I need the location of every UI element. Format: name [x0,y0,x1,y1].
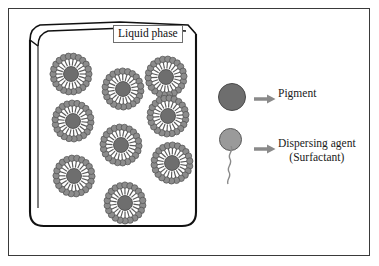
pigment-core [165,156,180,171]
micelle [147,95,189,137]
pigment-label: Pigment [278,87,316,99]
micelle [52,100,94,142]
pigment-core [114,138,129,153]
pigment-core [159,70,174,85]
micelle [102,68,144,110]
micelle [50,53,92,95]
micelle [100,124,142,166]
pigment-core [116,82,131,97]
surfactant-label-line2: (Surfactant) [278,150,356,164]
pigment-core [66,114,81,129]
surfactant-tail-icon [220,146,244,186]
micelle [104,182,146,224]
liquid-phase-label: Liquid phase [113,25,183,43]
legend: Pigment Dispersing agent (Surfactant) [212,78,372,188]
micelle [145,56,187,98]
pigment-core [67,169,82,184]
pigment-core [161,109,176,124]
right-arrow-icon [254,94,276,104]
surfactant-label-line1: Dispersing agent [278,137,356,149]
pigment-swatch-icon [218,83,246,111]
figure-root: Liquid phase Pigment Dispersing agent (S… [0,0,379,266]
micelle [53,155,95,197]
pigment-core [64,67,79,82]
pigment-core [118,196,133,211]
right-arrow-icon-2 [254,144,276,154]
surfactant-label: Dispersing agent (Surfactant) [278,136,356,164]
micelle [151,142,193,184]
